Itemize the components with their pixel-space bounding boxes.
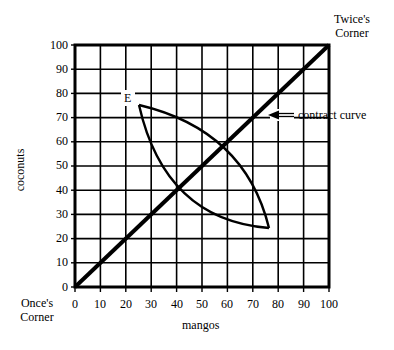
point-e-label: E (124, 91, 131, 105)
x-tick: 40 (165, 297, 189, 312)
twice-corner-line2: Corner (330, 26, 374, 40)
y-tick: 10 (44, 255, 68, 270)
twice-corner-label: Twice's Corner (330, 12, 374, 40)
once-corner-line1: Once's (15, 296, 59, 310)
x-tick: 60 (215, 297, 239, 312)
once-corner-label: Once's Corner (15, 296, 59, 324)
x-tick: 10 (88, 297, 112, 312)
x-tick: 70 (241, 297, 265, 312)
y-tick: 60 (44, 134, 68, 149)
x-tick: 100 (317, 297, 341, 312)
y-tick: 20 (44, 231, 68, 246)
x-tick: 80 (266, 297, 290, 312)
y-tick: 50 (44, 158, 68, 173)
twice-corner-line1: Twice's (330, 12, 374, 26)
x-axis-label: mangos (182, 318, 219, 332)
x-tick: 50 (190, 297, 214, 312)
x-tick: 0 (63, 297, 87, 312)
x-tick: 20 (114, 297, 138, 312)
y-axis-label: coconuts (13, 149, 28, 192)
once-corner-line2: Corner (15, 310, 59, 324)
y-tick: 100 (44, 38, 68, 53)
contract-curve-label: contract curve (298, 108, 366, 122)
x-tick: 90 (292, 297, 316, 312)
y-tick: 40 (44, 183, 68, 198)
x-tick: 30 (139, 297, 163, 312)
y-tick: 80 (44, 86, 68, 101)
y-tick: 0 (44, 280, 68, 295)
y-tick: 70 (44, 110, 68, 125)
y-tick: 30 (44, 207, 68, 222)
y-tick: 90 (44, 62, 68, 77)
